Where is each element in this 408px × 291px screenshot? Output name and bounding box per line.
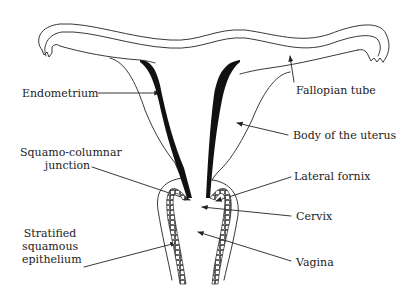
uterus-diagram: Endometrium Fallopian tube Body of the u… bbox=[0, 0, 408, 291]
label-vagina: Vagina bbox=[296, 256, 334, 269]
label-stratified-squamous-epithelium: Stratified squamous epithelium bbox=[22, 227, 78, 266]
label-cervix: Cervix bbox=[296, 210, 332, 223]
label-fallopian-tube: Fallopian tube bbox=[296, 84, 376, 97]
label-body-of-uterus: Body of the uterus bbox=[293, 129, 396, 142]
fallopian-tube-outer bbox=[39, 24, 389, 62]
label-squamo-columnar-junction: Squamo-columnar junction bbox=[20, 146, 115, 172]
epithelium-right bbox=[210, 188, 231, 284]
endometrium-right bbox=[206, 60, 240, 198]
fallopian-tube-inner bbox=[45, 32, 381, 56]
label-lateral-fornix: Lateral fornix bbox=[294, 170, 370, 183]
label-endometrium: Endometrium bbox=[22, 87, 98, 100]
endometrium-left bbox=[140, 60, 192, 198]
